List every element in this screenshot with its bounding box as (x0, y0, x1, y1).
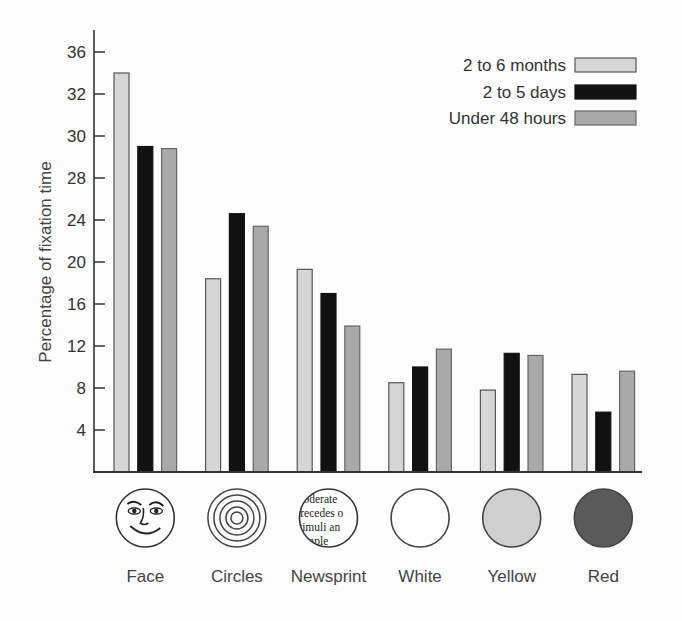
bar-circles-2-to-6-months (206, 279, 221, 472)
bar-yellow-2-to-5-days (504, 353, 519, 472)
bars (114, 73, 635, 472)
legend-swatch (575, 111, 636, 125)
bar-newsprint-2-to-5-days (321, 294, 336, 473)
y-tick-label: 36 (67, 43, 86, 62)
legend-label: 2 to 5 days (483, 83, 566, 102)
category-label-face: Face (126, 567, 164, 586)
category-label-white: White (398, 567, 441, 586)
legend-label: 2 to 6 months (463, 56, 566, 75)
yellow-circle-icon (483, 489, 541, 547)
newsprint-text-line: precedes o (295, 507, 344, 520)
y-tick-label: 16 (67, 295, 86, 314)
category-label-circles: Circles (211, 567, 263, 586)
category-icons: moderateprecedes ostimuli ancomple (116, 489, 632, 548)
y-tick-label: 20 (67, 253, 86, 272)
bar-red-under-48-hours (620, 371, 635, 472)
y-axis: 481216202428303236 (67, 30, 105, 473)
category-labels: FaceCirclesNewsprintWhiteYellowRed (126, 567, 618, 586)
bar-yellow-2-to-6-months (480, 390, 495, 472)
bar-newsprint-under-48-hours (345, 326, 360, 472)
bar-face-under-48-hours (162, 149, 177, 472)
bar-white-2-to-6-months (389, 383, 404, 472)
y-axis-label: Percentage of fixation time (36, 161, 55, 362)
bar-white-under-48-hours (436, 349, 451, 472)
bar-red-2-to-6-months (572, 374, 587, 472)
y-tick-label: 12 (67, 337, 86, 356)
newsprint-circle-icon: moderateprecedes ostimuli ancomple (295, 489, 358, 548)
newsprint-text-line: moderate (295, 493, 338, 505)
bar-face-2-to-6-months (114, 73, 129, 472)
category-label-newsprint: Newsprint (291, 567, 367, 586)
bar-white-2-to-5-days (413, 367, 428, 472)
bar-face-2-to-5-days (138, 147, 153, 473)
y-tick-label: 4 (77, 421, 86, 440)
bar-newsprint-2-to-6-months (297, 269, 312, 472)
y-tick-label: 8 (77, 379, 86, 398)
concentric-circles-icon (208, 489, 266, 547)
category-label-yellow: Yellow (487, 567, 536, 586)
legend: 2 to 6 months2 to 5 daysUnder 48 hours (449, 56, 636, 128)
legend-label: Under 48 hours (449, 109, 566, 128)
category-label-red: Red (588, 567, 619, 586)
legend-swatch (575, 85, 636, 99)
bar-yellow-under-48-hours (528, 355, 543, 472)
red-circle-icon (574, 489, 632, 547)
y-tick-label: 24 (67, 211, 86, 230)
face-drawing-icon (116, 489, 174, 547)
y-tick-label: 28 (67, 169, 86, 188)
y-tick-label: 32 (67, 85, 86, 104)
y-tick-label: 30 (67, 127, 86, 146)
bar-circles-2-to-5-days (229, 214, 244, 472)
bar-chart: Percentage of fixation time 481216202428… (0, 0, 682, 621)
bar-circles-under-48-hours (253, 226, 268, 472)
white-circle-icon (391, 489, 449, 547)
bar-red-2-to-5-days (596, 412, 611, 472)
legend-swatch (575, 58, 636, 72)
